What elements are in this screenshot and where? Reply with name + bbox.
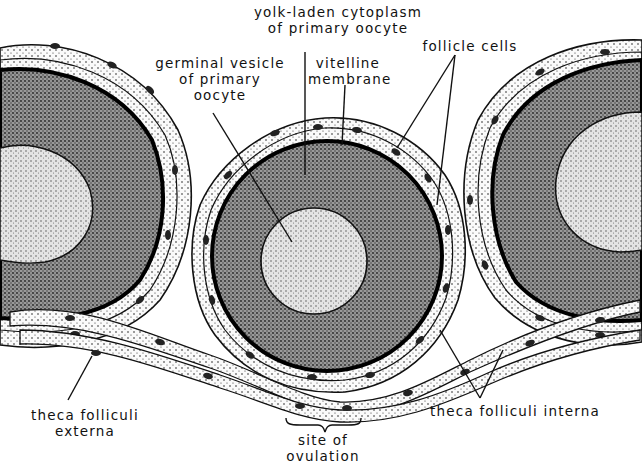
leader-theca-externa [68,356,92,400]
central-follicle [192,118,465,393]
label-germinal-line2: of primary [145,71,295,87]
label-vitelline-membrane: vitelline membrane [308,55,388,87]
label-vitelline-line2: membrane [308,71,388,87]
label-follicle-cells: follicle cells [415,38,525,54]
label-ovulation-line1: site of [283,432,363,448]
label-follicle-cells-line1: follicle cells [415,38,525,54]
label-yolk-line2: of primary oocyte [248,20,428,36]
label-theca-folliculi-externa: theca folliculi externa [20,407,150,439]
label-germinal-line1: germinal vesicle [145,55,295,71]
label-germinal-vesicle: germinal vesicle of primary oocyte [145,55,295,103]
label-ovulation-line2: ovulation [283,448,363,464]
label-germinal-line3: oocyte [145,87,295,103]
label-theca-interna-line1: theca folliculi interna [415,403,615,419]
label-yolk-laden-cytoplasm: yolk-laden cytoplasm of primary oocyte [248,4,428,36]
ovarian-follicle-diagram: yolk-laden cytoplasm of primary oocyte g… [0,0,642,470]
leader-follicle-cells-a [397,55,455,148]
label-theca-externa-line1: theca folliculi [20,407,150,423]
label-theca-folliculi-interna: theca folliculi interna [415,403,615,419]
label-yolk-line1: yolk-laden cytoplasm [248,4,428,20]
right-follicle [464,40,642,345]
label-theca-externa-line2: externa [20,423,150,439]
label-site-of-ovulation: site of ovulation [283,432,363,464]
label-vitelline-line1: vitelline [308,55,388,71]
